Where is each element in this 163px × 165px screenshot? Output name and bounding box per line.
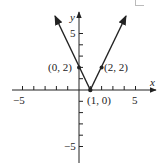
point-2-2	[100, 65, 104, 69]
point-label-2-2: (2, 2)	[104, 61, 128, 74]
right-branch	[90, 16, 126, 90]
graph-plot: y x −5 5 5 −5 (0, 2) (2, 2) (1, 0)	[0, 0, 163, 165]
point-0-2	[77, 65, 81, 69]
x-axis-label: x	[149, 76, 155, 88]
x-tick-label-neg5: −5	[13, 94, 25, 106]
point-label-0-2: (0, 2)	[48, 61, 72, 74]
y-axis-label: y	[69, 11, 75, 23]
y-tick-label-neg5: −5	[64, 140, 76, 152]
point-label-1-0: (1, 0)	[87, 94, 111, 107]
point-1-0	[88, 88, 92, 92]
x-tick-label-5: 5	[132, 94, 138, 106]
y-tick-label-5: 5	[70, 27, 76, 39]
